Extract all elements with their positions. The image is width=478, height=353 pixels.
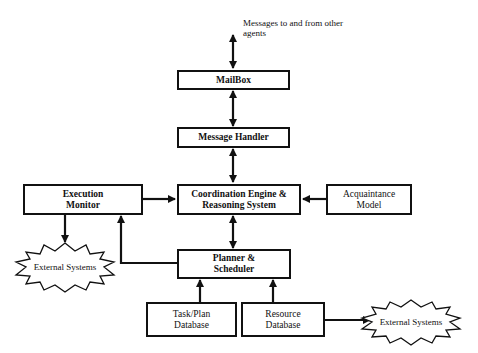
external-systems-left-label: External Systems (25, 262, 105, 272)
top-note: Messages to and from other agents (243, 18, 343, 38)
message-handler-node: Message Handler (177, 127, 290, 148)
connector-layer (0, 0, 478, 353)
taskplan-database-node: Task/Plan Database (146, 302, 237, 337)
acquaintance-model-node: Acquaintance Model (326, 184, 412, 215)
mailbox-node: MailBox (177, 70, 290, 90)
arrow-planner-monitor (121, 216, 177, 263)
planner-scheduler-node: Planner & Scheduler (177, 249, 291, 279)
external-systems-right-label: External Systems (371, 317, 451, 327)
coordination-engine-node: Coordination Engine & Reasoning System (177, 184, 301, 215)
resource-database-node: Resource Database (241, 302, 325, 337)
execution-monitor-node: Execution Monitor (23, 184, 143, 215)
